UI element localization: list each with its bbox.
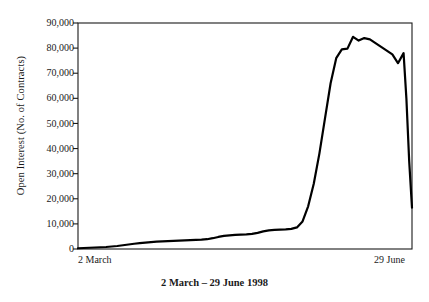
figure-caption: 2 March – 29 June 1998 [0,277,429,288]
chart-plot-area [0,0,429,302]
y-axis-ticks [73,23,78,249]
axes-frame [78,23,412,249]
data-series-line [78,37,412,248]
plot-frame [78,23,412,249]
chart-figure: Open Interest (No. of Contracts) 90,000 … [0,0,429,302]
